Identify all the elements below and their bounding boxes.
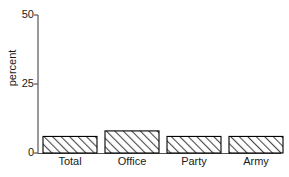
bar-office xyxy=(105,131,159,153)
x-tick-label-total: Total xyxy=(43,156,97,167)
x-tick-label-army: Army xyxy=(229,156,283,167)
plot-area xyxy=(0,0,289,177)
x-tick-label-party: Party xyxy=(167,156,221,167)
bar-chart: percent 50 25 0 Total Office Party Army xyxy=(0,0,289,177)
x-tick-label-office: Office xyxy=(105,156,159,167)
bar-army xyxy=(229,136,283,153)
bars-group xyxy=(43,131,283,153)
bar-total xyxy=(43,136,97,153)
bar-party xyxy=(167,136,221,153)
